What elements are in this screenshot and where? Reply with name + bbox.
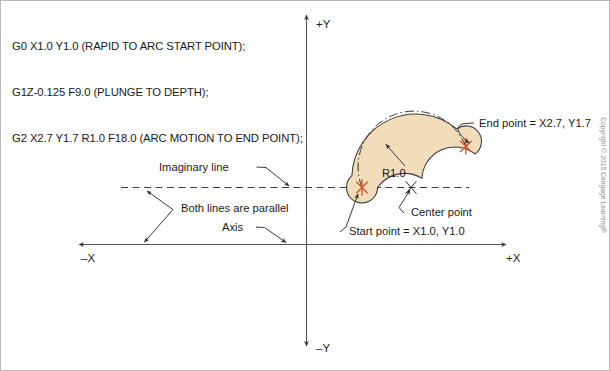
coordinate-axes xyxy=(79,15,506,346)
label-both-lines-parallel: Both lines are parallel xyxy=(181,202,289,214)
axis-label-negative-y: –Y xyxy=(316,342,330,354)
copyright-notice: Copyright © 2015 Cengage Learning® xyxy=(600,117,607,233)
center-point-leader xyxy=(399,190,410,213)
label-radius: R1.0 xyxy=(382,167,406,179)
arc-motion-diagram: –X +X +Y –Y I xyxy=(1,1,610,371)
label-axis: Axis xyxy=(222,221,244,233)
axis-leader xyxy=(256,227,286,243)
label-start-point: Start point = X1.0, Y1.0 xyxy=(349,225,465,237)
axis-label-negative-x: –X xyxy=(81,252,95,264)
label-center-point: Center point xyxy=(411,206,473,218)
parallel-lines-leader xyxy=(145,191,174,242)
axis-label-positive-y: +Y xyxy=(316,18,331,30)
axis-label-positive-x: +X xyxy=(506,252,521,264)
imaginary-line-leader xyxy=(257,167,290,186)
label-imaginary-line: Imaginary line xyxy=(159,161,229,173)
diagram-page: G0 X1.0 Y1.0 (RAPID TO ARC START POINT);… xyxy=(0,0,610,371)
label-end-point: End point = X2.7, Y1.7 xyxy=(479,117,591,129)
slot-outline xyxy=(346,114,481,203)
